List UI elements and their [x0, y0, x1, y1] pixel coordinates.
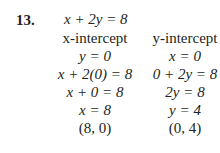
x-intercept-point: (8, 0) — [47, 119, 143, 137]
x-intercept-step: x + 2(0) = 8 — [47, 65, 143, 83]
y-intercept-step: y = 4 — [137, 101, 220, 119]
problem-number: 13. — [16, 12, 35, 29]
y-intercept-step: 0 + 2y = 8 — [137, 65, 220, 83]
x-intercept-step: y = 0 — [47, 47, 143, 65]
x-intercept-column: x-intercept y = 0 x + 2(0) = 8 x + 0 = 8… — [47, 29, 143, 137]
x-intercept-heading: x-intercept — [47, 29, 143, 47]
y-intercept-step: x = 0 — [137, 47, 220, 65]
y-intercept-step: 2y = 8 — [137, 83, 220, 101]
x-intercept-step: x = 8 — [47, 101, 143, 119]
y-intercept-heading: y-intercept — [137, 29, 220, 47]
problem-equation: x + 2y = 8 — [64, 11, 128, 28]
y-intercept-point: (0, 4) — [137, 119, 220, 137]
y-intercept-column: y-intercept x = 0 0 + 2y = 8 2y = 8 y = … — [137, 29, 220, 137]
x-intercept-step: x + 0 = 8 — [47, 83, 143, 101]
